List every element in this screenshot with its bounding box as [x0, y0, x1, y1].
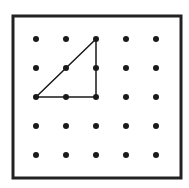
- grid-dot: [123, 94, 129, 100]
- grid-dot: [123, 65, 129, 71]
- grid-dot: [123, 152, 129, 158]
- grid-dot: [153, 123, 159, 129]
- grid-dot: [123, 36, 129, 42]
- triangle-shape: [36, 39, 96, 97]
- geoboard: [0, 0, 189, 188]
- grid-dot: [93, 152, 99, 158]
- grid-dot: [153, 152, 159, 158]
- grid-dot: [63, 36, 69, 42]
- grid-dot: [63, 123, 69, 129]
- grid-dot: [63, 152, 69, 158]
- grid-dot: [33, 152, 39, 158]
- grid-dot: [153, 36, 159, 42]
- grid-dot: [153, 65, 159, 71]
- grid-dot: [33, 123, 39, 129]
- grid-dot: [153, 94, 159, 100]
- grid-dot: [93, 123, 99, 129]
- grid-dot: [123, 123, 129, 129]
- grid-dot: [33, 65, 39, 71]
- grid-dot: [33, 36, 39, 42]
